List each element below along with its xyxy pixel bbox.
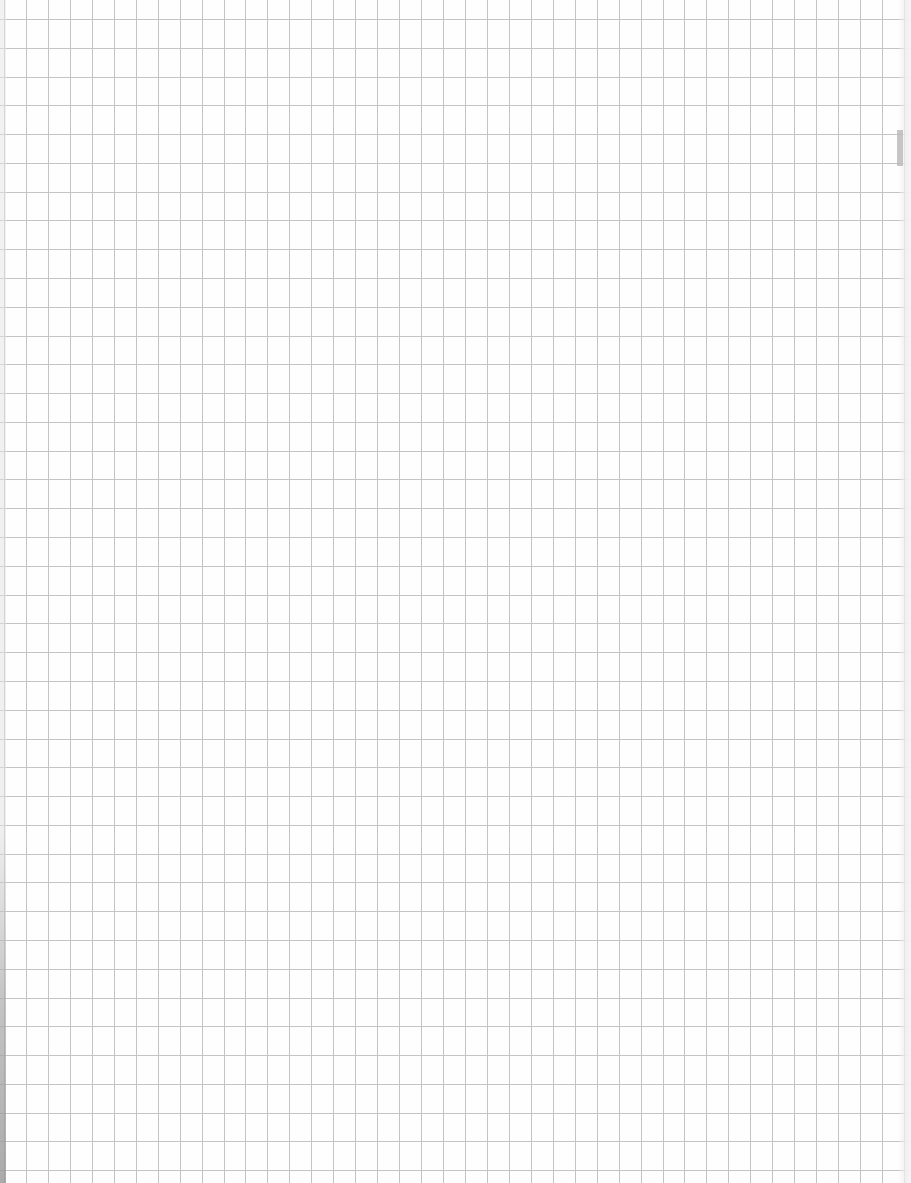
grid-horizontal-line <box>0 508 911 509</box>
grid-vertical-line <box>663 0 664 1183</box>
grid-vertical-line <box>180 0 181 1183</box>
grid-horizontal-line <box>0 422 911 423</box>
grid-vertical-line <box>224 0 225 1183</box>
grid-horizontal-line <box>0 854 911 855</box>
grid-vertical-line <box>487 0 488 1183</box>
grid-vertical-line <box>575 0 576 1183</box>
left-edge-shadow <box>0 0 6 1183</box>
grid-vertical-line <box>860 0 861 1183</box>
grid-vertical-line <box>465 0 466 1183</box>
grid-vertical-line <box>158 0 159 1183</box>
grid-horizontal-line <box>0 307 911 308</box>
grid-vertical-line <box>509 0 510 1183</box>
grid-horizontal-line <box>0 105 911 106</box>
grid-vertical-line <box>399 0 400 1183</box>
grid-vertical-line <box>882 0 883 1183</box>
grid-horizontal-line <box>0 998 911 999</box>
grid-vertical-line <box>443 0 444 1183</box>
grid-horizontal-line <box>0 940 911 941</box>
grid-horizontal-line <box>0 623 911 624</box>
grid-vertical-line <box>838 0 839 1183</box>
grid-horizontal-line <box>0 19 911 20</box>
grid-vertical-line <box>641 0 642 1183</box>
grid-vertical-line <box>289 0 290 1183</box>
grid-horizontal-line <box>0 48 911 49</box>
grid-horizontal-line <box>0 710 911 711</box>
grid-vertical-line <box>816 0 817 1183</box>
grid-vertical-line <box>750 0 751 1183</box>
grid-horizontal-line <box>0 882 911 883</box>
grid-vertical-line <box>70 0 71 1183</box>
grid-horizontal-line <box>0 652 911 653</box>
grid-horizontal-line <box>0 969 911 970</box>
grid-vertical-line <box>311 0 312 1183</box>
grid-vertical-line <box>136 0 137 1183</box>
grid-horizontal-line <box>0 163 911 164</box>
grid-vertical-line <box>245 0 246 1183</box>
grid-horizontal-line <box>0 192 911 193</box>
grid-vertical-line <box>48 0 49 1183</box>
grid <box>0 0 911 1183</box>
grid-vertical-line <box>619 0 620 1183</box>
right-edge-mark <box>897 130 903 166</box>
grid-vertical-line <box>333 0 334 1183</box>
grid-horizontal-line <box>0 1026 911 1027</box>
grid-vertical-line <box>794 0 795 1183</box>
grid-horizontal-line <box>0 1113 911 1114</box>
grid-vertical-line <box>377 0 378 1183</box>
graph-paper-sheet <box>0 0 911 1183</box>
grid-horizontal-line <box>0 1084 911 1085</box>
grid-vertical-line <box>26 0 27 1183</box>
grid-vertical-line <box>421 0 422 1183</box>
grid-horizontal-line <box>0 566 911 567</box>
grid-vertical-line <box>597 0 598 1183</box>
grid-vertical-line <box>553 0 554 1183</box>
grid-horizontal-line <box>0 278 911 279</box>
grid-horizontal-line <box>0 911 911 912</box>
grid-vertical-line <box>684 0 685 1183</box>
grid-vertical-line <box>355 0 356 1183</box>
grid-vertical-line <box>92 0 93 1183</box>
grid-horizontal-line <box>0 825 911 826</box>
grid-horizontal-line <box>0 1170 911 1171</box>
grid-horizontal-line <box>0 739 911 740</box>
grid-vertical-line <box>202 0 203 1183</box>
grid-vertical-line <box>728 0 729 1183</box>
grid-vertical-line <box>114 0 115 1183</box>
grid-horizontal-line <box>0 681 911 682</box>
grid-horizontal-line <box>0 77 911 78</box>
right-edge-shadow <box>898 0 911 1183</box>
grid-horizontal-line <box>0 537 911 538</box>
grid-vertical-line <box>267 0 268 1183</box>
grid-horizontal-line <box>0 336 911 337</box>
grid-vertical-line <box>531 0 532 1183</box>
grid-horizontal-line <box>0 479 911 480</box>
grid-horizontal-line <box>0 393 911 394</box>
grid-horizontal-line <box>0 134 911 135</box>
grid-horizontal-line <box>0 595 911 596</box>
grid-horizontal-line <box>0 220 911 221</box>
grid-vertical-line <box>706 0 707 1183</box>
grid-horizontal-line <box>0 796 911 797</box>
grid-horizontal-line <box>0 451 911 452</box>
grid-horizontal-line <box>0 249 911 250</box>
grid-horizontal-line <box>0 364 911 365</box>
grid-horizontal-line <box>0 1141 911 1142</box>
grid-horizontal-line <box>0 1055 911 1056</box>
grid-vertical-line <box>772 0 773 1183</box>
grid-horizontal-line <box>0 767 911 768</box>
